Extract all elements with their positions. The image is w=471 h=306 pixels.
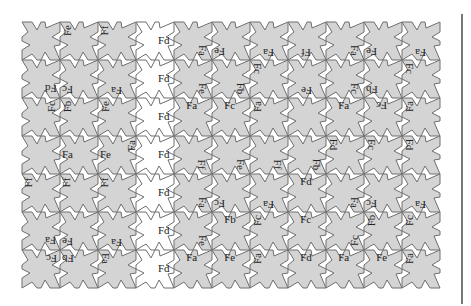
tile-label: Fc xyxy=(252,215,263,226)
tile-label: Fa xyxy=(197,45,208,56)
tile-label: Fa xyxy=(252,101,263,112)
tile-label: Fb xyxy=(62,253,74,264)
tile-label: Fa xyxy=(404,253,415,264)
tile-label: Fc xyxy=(349,235,360,246)
tile-label: Fc xyxy=(349,83,360,94)
tile-label: Fc xyxy=(366,198,377,209)
tile-label: Fe xyxy=(197,83,208,94)
tile-label: Fa xyxy=(100,253,111,264)
tile-label: Fa xyxy=(111,237,122,248)
tile-label: Fc xyxy=(62,84,73,95)
tile-label: Fb xyxy=(311,159,322,171)
tile-label: Fa xyxy=(111,85,122,96)
tile-label: Fd xyxy=(158,149,170,160)
tile-label: Fa xyxy=(197,197,208,208)
tile-label: Fa xyxy=(338,252,349,263)
tile-label: Fa xyxy=(263,199,274,210)
tile-label: Fe xyxy=(214,46,225,57)
tile-label: Fd xyxy=(158,73,170,84)
tile-label: Fa xyxy=(186,100,197,111)
tile-label: Fe xyxy=(235,159,246,170)
tile-label: Fe xyxy=(62,236,73,247)
tile-label: Fe xyxy=(376,252,387,263)
tile-label: Fd xyxy=(158,35,170,46)
tile-label: Fb xyxy=(235,83,246,95)
tile-label: Fd xyxy=(300,176,312,187)
tile-label: Ff xyxy=(272,160,283,170)
tile-label: Fe xyxy=(224,252,235,263)
puzzle-tile xyxy=(288,98,326,136)
tile-label: Fa xyxy=(338,100,349,111)
tile-label: Fc xyxy=(404,215,415,226)
tile-label: Fd xyxy=(404,139,415,151)
tile-label: Fd xyxy=(158,225,170,236)
tile-label: Fa xyxy=(404,101,415,112)
tile-label: Ff xyxy=(99,26,110,36)
tile-label: Fc xyxy=(252,63,263,74)
tile-label: Fa xyxy=(45,235,56,246)
tile-label: Fd xyxy=(45,83,57,94)
tile-label: Fa xyxy=(62,149,73,160)
tile-label: Fe xyxy=(301,85,312,96)
tile-label: Fa xyxy=(349,197,360,208)
tile-label: Fb xyxy=(224,214,236,225)
tile-label: Fa xyxy=(186,252,197,263)
tile-label: Fc xyxy=(46,253,57,264)
tile-label: Fd xyxy=(300,252,312,263)
tile-label: Fe xyxy=(100,149,111,160)
tile-label: Ff xyxy=(301,47,311,58)
tile-label: Fd xyxy=(158,187,170,198)
puzzle-tile xyxy=(22,136,60,174)
board-divider xyxy=(461,14,463,304)
tile-label: Fc xyxy=(366,139,377,150)
tile-label: Fb xyxy=(62,101,73,113)
tile-label: Fb xyxy=(366,215,377,227)
tile-label: Fa xyxy=(415,199,426,210)
tile-label: Fc xyxy=(404,63,415,74)
tile-label: Fa xyxy=(415,47,426,58)
tile-label: Fc xyxy=(300,214,311,225)
tile-label: Ff xyxy=(196,160,207,170)
tile-label: Fe xyxy=(62,25,73,36)
puzzle-tile xyxy=(22,22,60,60)
tile-label: Ff xyxy=(61,178,72,188)
tile-label: Fc xyxy=(224,100,235,111)
tile-label: Fd xyxy=(328,139,339,151)
tile-label: Fa xyxy=(126,140,137,151)
tile-label: Fa xyxy=(252,253,263,264)
tile-label: Fe xyxy=(366,46,377,57)
tile-label: Fb xyxy=(366,84,378,95)
tile-label: Ff xyxy=(99,178,110,188)
tile-label: Ff xyxy=(23,178,34,188)
tile-label: Fc xyxy=(214,198,225,209)
tile-label: Fa xyxy=(263,47,274,58)
tile-label: Fc xyxy=(376,100,387,111)
tile-label: Fa xyxy=(349,45,360,56)
tile-label: Fd xyxy=(158,111,170,122)
tile-label: Fe xyxy=(100,101,111,112)
tile-label: Fd xyxy=(158,263,170,274)
tile-label: Fc xyxy=(46,101,57,112)
tile-board: FeFfFdFaFeFaFfFaFeFaFdFcFaFdFeFbFcFeFcFb… xyxy=(0,0,471,306)
tile-label: Fe xyxy=(197,235,208,246)
